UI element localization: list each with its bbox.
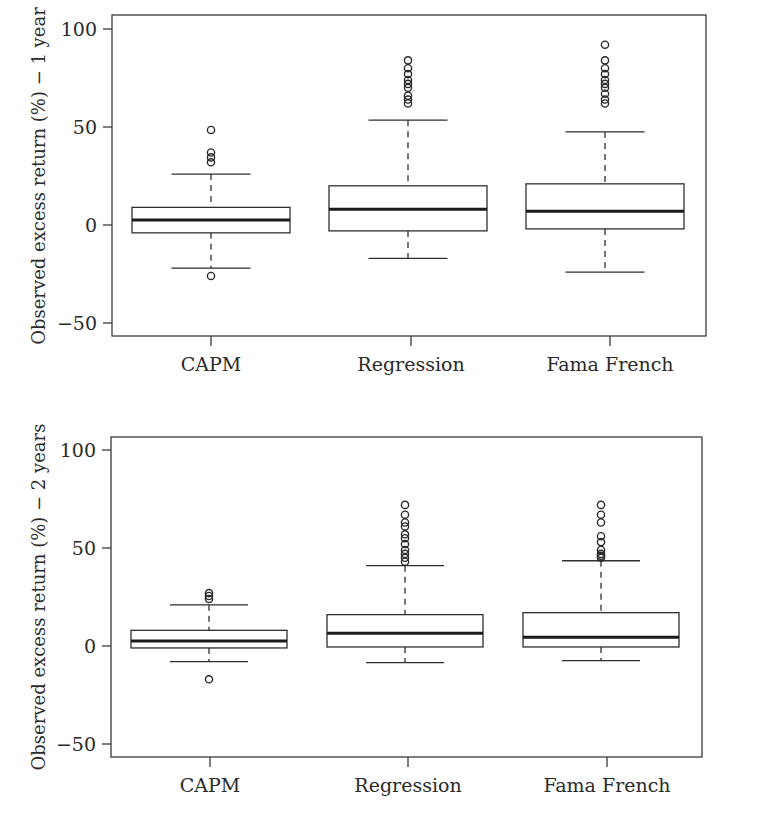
x-tick-label-fama-french: Fama French bbox=[543, 774, 670, 796]
outlier-point bbox=[597, 519, 604, 526]
y-axis: 100 50 0 −50 bbox=[57, 18, 112, 334]
y-tick-label: 100 bbox=[61, 18, 97, 40]
x-tick-label-capm: CAPM bbox=[180, 774, 241, 796]
x-tick-label-fama-french: Fama French bbox=[546, 353, 673, 375]
box-fama-french bbox=[523, 501, 679, 660]
y-tick-label: 0 bbox=[85, 214, 97, 236]
outlier-point bbox=[601, 41, 608, 48]
outlier-point bbox=[401, 501, 408, 508]
figure-svg: Observed excess return (%) − 1 year 100 … bbox=[0, 0, 772, 822]
x-tick-label-capm: CAPM bbox=[181, 353, 242, 375]
y-axis: 100 50 0 −50 bbox=[56, 439, 111, 755]
iqr-box bbox=[523, 613, 679, 647]
outlier-point bbox=[601, 57, 608, 64]
y-tick-label: 50 bbox=[72, 537, 96, 559]
box-capm bbox=[132, 126, 290, 279]
x-axis: CAPM Regression Fama French bbox=[180, 757, 671, 796]
outlier-point bbox=[597, 511, 604, 518]
panel-1-year: Observed excess return (%) − 1 year 100 … bbox=[28, 7, 706, 375]
box-regression bbox=[329, 57, 487, 259]
panel-2-years: Observed excess return (%) − 2 years 100… bbox=[28, 424, 702, 796]
x-tick-label-regression: Regression bbox=[354, 774, 461, 796]
outlier-point bbox=[205, 676, 212, 683]
y-axis-label: Observed excess return (%) − 2 years bbox=[28, 424, 49, 771]
outlier-point bbox=[207, 126, 214, 133]
figure: Observed excess return (%) − 1 year 100 … bbox=[0, 0, 772, 822]
x-tick-label-regression: Regression bbox=[357, 353, 464, 375]
y-axis-label: Observed excess return (%) − 1 year bbox=[28, 7, 49, 345]
y-tick-label: 100 bbox=[60, 439, 96, 461]
box-fama-french bbox=[526, 41, 684, 272]
box-regression bbox=[327, 501, 483, 662]
y-tick-label: −50 bbox=[57, 312, 97, 334]
iqr-box bbox=[131, 630, 287, 648]
boxplots bbox=[132, 41, 684, 279]
box-capm bbox=[131, 589, 287, 682]
outlier-point bbox=[207, 159, 214, 166]
outlier-point bbox=[404, 57, 411, 64]
plot-frame bbox=[111, 437, 702, 757]
boxplots bbox=[131, 501, 679, 683]
x-axis: CAPM Regression Fama French bbox=[181, 336, 674, 375]
outlier-point bbox=[597, 501, 604, 508]
y-tick-label: 50 bbox=[73, 116, 97, 138]
iqr-box bbox=[526, 184, 684, 229]
y-tick-label: 0 bbox=[84, 635, 96, 657]
outlier-point bbox=[401, 511, 408, 518]
outlier-point bbox=[207, 272, 214, 279]
y-tick-label: −50 bbox=[56, 733, 96, 755]
iqr-box bbox=[327, 615, 483, 647]
